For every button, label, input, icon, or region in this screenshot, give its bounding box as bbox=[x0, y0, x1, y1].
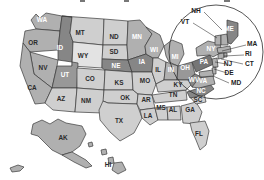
state-label-IN: IN bbox=[168, 66, 175, 73]
leader-line-MD bbox=[213, 76, 229, 83]
callout-label-RI: RI bbox=[245, 50, 252, 57]
state-label-AZ: AZ bbox=[57, 95, 66, 102]
cropped-text-fragment-2 bbox=[124, 0, 129, 2]
state-shape-RI[interactable] bbox=[224, 53, 227, 57]
state-label-FL: FL bbox=[195, 130, 203, 137]
state-shape-DE[interactable] bbox=[212, 67, 216, 74]
callout-label-VT: VT bbox=[181, 18, 189, 25]
state-label-SC: SC bbox=[194, 96, 203, 103]
callout-label-DE: DE bbox=[224, 69, 234, 76]
state-label-OK: OK bbox=[120, 94, 130, 101]
state-label-UT: UT bbox=[61, 71, 70, 78]
state-shape-AK-panhandle[interactable] bbox=[62, 152, 92, 168]
state-label-GA: GA bbox=[185, 106, 195, 113]
state-label-TN: TN bbox=[169, 91, 178, 98]
leader-line-VT bbox=[193, 23, 217, 38]
state-shape-HI-4[interactable] bbox=[112, 162, 126, 174]
state-label-NV: NV bbox=[39, 64, 49, 71]
state-label-NM: NM bbox=[81, 97, 91, 104]
state-label-ID: ID bbox=[57, 44, 64, 51]
state-label-ND: ND bbox=[109, 33, 119, 40]
cropped-text-fragment-1 bbox=[80, 0, 85, 2]
state-label-WA: WA bbox=[37, 16, 48, 23]
callout-label-CT: CT bbox=[245, 60, 254, 67]
state-label-OH: OH bbox=[180, 64, 190, 71]
state-label-CA: CA bbox=[27, 84, 37, 91]
state-label-KS: KS bbox=[115, 79, 125, 86]
state-label-MS: MS bbox=[156, 104, 166, 111]
state-label-LA: LA bbox=[144, 112, 153, 119]
state-shape-NH[interactable] bbox=[221, 34, 228, 45]
leader-line-NH bbox=[204, 12, 222, 30]
state-label-NY: NY bbox=[207, 45, 217, 52]
cropped-text-fragment-3 bbox=[224, 0, 230, 2]
state-label-OR: OR bbox=[28, 39, 38, 46]
state-shape-ME[interactable] bbox=[227, 20, 238, 44]
state-label-MI: MI bbox=[171, 53, 178, 60]
state-label-NE: NE bbox=[112, 62, 122, 69]
state-label-CO: CO bbox=[85, 75, 95, 82]
state-label-WY: WY bbox=[78, 52, 89, 59]
state-shape-VT[interactable] bbox=[215, 35, 221, 45]
state-label-MN: MN bbox=[132, 33, 142, 40]
callout-label-NJ: NJ bbox=[224, 60, 233, 67]
state-shape-HI-2[interactable] bbox=[101, 149, 107, 155]
callout-label-NH: NH bbox=[191, 7, 201, 14]
state-label-HI: HI bbox=[105, 161, 112, 168]
state-label-PA: PA bbox=[200, 58, 209, 65]
state-label-WI: WI bbox=[150, 46, 158, 53]
state-label-ME: ME bbox=[224, 25, 234, 32]
map-canvas: WAORIDMTWYNDSDNEKSNVCAUTCOAZNMOKTXMNIAMO… bbox=[0, 0, 264, 180]
state-label-MO: MO bbox=[140, 77, 150, 84]
state-shape-CT[interactable] bbox=[218, 53, 224, 59]
state-label-AL: AL bbox=[169, 106, 178, 113]
state-label-TX: TX bbox=[115, 117, 124, 124]
us-state-map: WAORIDMTWYNDSDNEKSNVCAUTCOAZNMOKTXMNIAMO… bbox=[0, 0, 264, 180]
state-label-AK: AK bbox=[58, 134, 68, 141]
callout-label-MD: MD bbox=[231, 79, 241, 86]
state-label-VA: VA bbox=[199, 77, 208, 84]
callout-label-MA: MA bbox=[247, 40, 257, 47]
state-label-KY: KY bbox=[174, 81, 184, 88]
state-label-MT: MT bbox=[75, 29, 84, 36]
state-label-IL: IL bbox=[155, 66, 161, 73]
state-shape-HI-1[interactable] bbox=[88, 142, 93, 147]
state-label-SD: SD bbox=[110, 48, 119, 55]
state-label-IA: IA bbox=[139, 58, 146, 65]
state-shape-AK-islands[interactable] bbox=[10, 165, 24, 172]
state-label-AR: AR bbox=[141, 96, 151, 103]
state-label-NC: NC bbox=[196, 87, 206, 94]
